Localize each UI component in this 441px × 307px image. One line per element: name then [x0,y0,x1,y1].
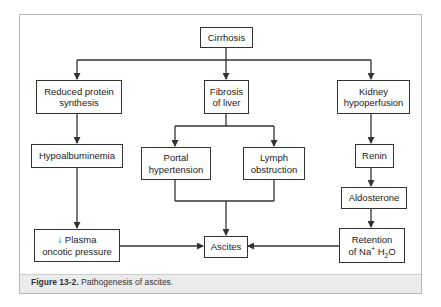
node-label: Cirrhosis [208,32,245,44]
node-hypoalbuminemia: Hypoalbuminemia [31,144,123,168]
node-label: hypertension [149,164,203,176]
node-label: ↓ Plasma [57,234,96,246]
node-label: oncotic pressure [42,246,112,258]
node-kidney-hypoperfusion: Kidney hypoperfusion [337,80,410,114]
node-label: of liver [213,97,241,109]
node-aldosterone: Aldosterone [341,187,407,209]
node-renin: Renin [355,144,394,168]
node-label: synthesis [59,97,99,109]
node-label: Lymph [260,152,288,164]
node-label: Renin [362,150,387,162]
node-label: Ascites [211,241,242,253]
node-portal-hypertension: Portal hypertension [141,147,211,180]
node-reduced-protein-synthesis: Reduced protein synthesis [36,80,122,114]
node-label: obstruction [251,164,297,176]
node-fibrosis-of-liver: Fibrosis of liver [204,80,249,114]
node-plasma-oncotic-pressure: ↓ Plasma oncotic pressure [34,229,120,262]
figure-caption-text: Pathogenesis of ascites. [79,277,174,287]
node-retention-na-h2o: Retention of Na+ H2O [339,228,405,263]
node-label: Hypoalbuminemia [39,150,115,162]
figure-caption: Figure 13-2. Pathogenesis of ascites. [31,277,173,287]
node-cirrhosis: Cirrhosis [200,27,253,48]
node-label: Kidney [359,86,388,98]
node-label: Fibrosis [210,86,243,98]
node-label: hypoperfusion [344,97,404,109]
node-ascites: Ascites [204,236,248,258]
node-label: of Na+ H2O [348,246,395,258]
node-label: Aldosterone [349,192,400,204]
node-label: Portal [164,152,189,164]
node-lymph-obstruction: Lymph obstruction [243,147,305,180]
node-label: Reduced protein [44,86,114,98]
figure-label: Figure 13-2. [31,277,79,287]
